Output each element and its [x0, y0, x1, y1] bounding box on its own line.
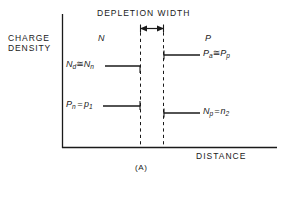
annotation-pn-p1-sub1: n — [72, 103, 76, 110]
annotation-pn-p1: Pn=p1 — [66, 99, 93, 109]
annotation-np-n2-base1: N — [203, 106, 210, 116]
region-label-p: P — [205, 33, 211, 43]
charge-density-plot — [0, 0, 283, 211]
annotation-nd-nn-base1: N — [66, 59, 73, 69]
y-axis-label-line2: DENSITY — [8, 44, 51, 54]
annotation-nd-nn-sub1: d — [73, 63, 77, 70]
annotation-nd-nn-sub2: n — [90, 63, 94, 70]
annotation-nd-nn: Nd≅Nn — [66, 59, 94, 69]
depletion-width-arrow — [140, 25, 164, 33]
annotation-np-n2-sub2: 2 — [225, 110, 229, 117]
annotation-np-n2: Np=n2 — [203, 106, 229, 116]
x-axis-label: DISTANCE — [196, 152, 246, 162]
level-line-pa-pp — [164, 51, 201, 60]
annotation-pa-pp: Pa≅Pp — [203, 48, 230, 58]
annotation-np-n2-sub1: p — [210, 110, 214, 117]
figure-charge-density-pn-junction: DEPLETION WIDTH CHARGE DENSITY N P Nd≅Nn… — [0, 0, 283, 211]
y-axis-label: CHARGE DENSITY — [8, 34, 51, 53]
level-line-np-n2 — [164, 109, 201, 118]
annotation-pn-p1-rel: = — [76, 99, 84, 109]
figure-caption: (A) — [135, 164, 147, 173]
level-line-pn-p1 — [103, 101, 141, 110]
annotation-pa-pp-sub1: a — [209, 52, 213, 59]
annotation-pn-p1-sub2: 1 — [89, 103, 93, 110]
annotation-nd-nn-rel: ≅ — [76, 59, 84, 69]
chart-title: DEPLETION WIDTH — [97, 9, 190, 19]
region-label-n: N — [98, 33, 105, 43]
level-line-nd-nn — [105, 66, 141, 73]
annotation-pa-pp-sub2: p — [226, 52, 230, 59]
